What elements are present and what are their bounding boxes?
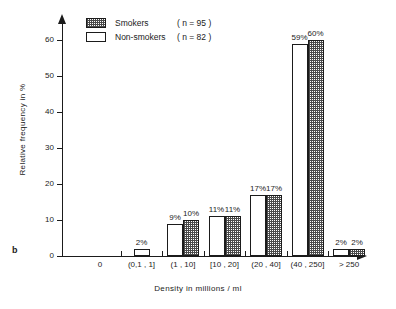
y-tick-label-30: 30 [36,144,54,152]
bar-non-smokers-group-6[interactable] [333,249,349,256]
bar-smokers-group-6[interactable] [349,249,365,256]
y-tick-label-20: 20 [36,180,54,188]
x-label-group-3: [10 , 20] [204,260,246,269]
x-axis-title: Density in millions / ml [0,284,396,293]
x-axis-line [62,256,358,257]
y-tick-label-40: 40 [36,108,54,116]
y-axis-title: Relative frequency in % [18,65,27,195]
x-label-group-4: (20 , 40] [245,260,287,269]
y-tick-label-50: 50 [36,72,54,80]
y-tick-label-0: 0 [36,252,54,260]
y-tick-label-10: 10 [36,216,54,224]
y-tick-0 [57,256,63,257]
bar-group-6: 2%2% [62,22,358,256]
x-label-origin: 0 [79,260,121,269]
bar-value-label-smokers-group-6: 2% [351,239,363,247]
x-label-group-5: (40 , 250] [287,260,329,269]
x-label-group-6: > 250 [328,260,370,269]
plot-area: 2%9%10%11%11%17%17%59%60%2%2% [62,22,358,256]
bar-value-label-non-smokers-group-6: 2% [335,239,347,247]
y-tick-label-60: 60 [36,36,54,44]
figure-panel-b: b Smokers ( n = 95 ) Non-smokers ( n = 8… [0,0,396,309]
x-label-group-1: (0,1 , 1] [121,260,163,269]
panel-letter: b [12,245,18,255]
x-label-group-2: (1 , 10] [162,260,204,269]
